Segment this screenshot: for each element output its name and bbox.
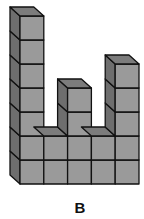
cube-front-face	[115, 64, 139, 88]
cube-front-face	[115, 112, 139, 136]
cube-front-face	[68, 136, 92, 160]
cube-front-face	[20, 16, 44, 40]
cube-front-face	[44, 136, 68, 160]
cube-front-face	[20, 40, 44, 64]
cube-stack-drawing	[0, 0, 144, 219]
cube-front-face	[115, 136, 139, 160]
cube-front-face	[20, 64, 44, 88]
cube-front-face	[20, 136, 44, 160]
cube-front-face	[20, 160, 44, 184]
cube-stack-figure	[0, 0, 144, 219]
cube-front-face	[44, 160, 68, 184]
cube-front-face	[68, 88, 92, 112]
cube-front-face	[20, 88, 44, 112]
cube-front-face	[115, 88, 139, 112]
cube-front-face	[68, 160, 92, 184]
cube-front-face	[91, 136, 115, 160]
cube-front-face	[91, 160, 115, 184]
figure-label: B	[0, 199, 144, 216]
cube-front-face	[115, 160, 139, 184]
